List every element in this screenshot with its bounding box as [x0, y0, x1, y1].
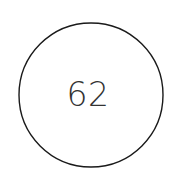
diagram-figure: 62	[0, 0, 176, 192]
node-value-label: 62	[67, 75, 110, 114]
diagram-canvas: 62	[0, 0, 176, 192]
node-group[interactable]: 62	[19, 23, 163, 167]
